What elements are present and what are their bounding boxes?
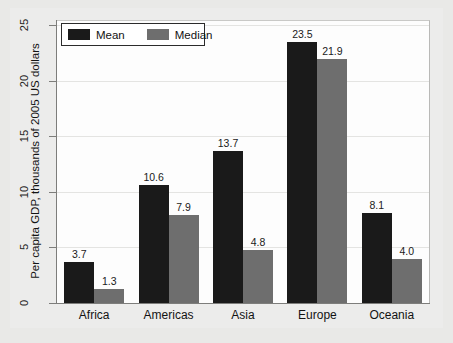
legend-label-median: Median	[175, 29, 213, 41]
x-category-label-europe: Europe	[280, 308, 354, 322]
legend-item-mean[interactable]: Mean	[68, 29, 125, 41]
value-label-oceania-median: 4.0	[383, 245, 431, 257]
legend-item-median[interactable]: Median	[147, 29, 213, 41]
x-axis-line	[56, 303, 430, 304]
bar-asia-median[interactable]	[243, 250, 273, 303]
value-label-africa-mean: 3.7	[55, 248, 103, 260]
legend-label-mean: Mean	[96, 29, 125, 41]
legend-swatch-mean	[68, 29, 90, 40]
x-category-label-africa: Africa	[57, 308, 131, 322]
value-label-americas-median: 7.9	[160, 201, 208, 213]
x-category-label-asia: Asia	[206, 308, 280, 322]
y-axis-title: Per capita GDP, thousands of 2005 US dol…	[29, 16, 41, 306]
legend-swatch-median	[147, 29, 169, 40]
x-category-label-oceania: Oceania	[355, 308, 429, 322]
y-axis-line	[56, 20, 57, 304]
value-label-europe-mean: 23.5	[278, 28, 326, 40]
chart-page: 0510152025 Per capita GDP, thousands of …	[0, 0, 453, 343]
bar-africa-median[interactable]	[94, 289, 124, 303]
bar-americas-median[interactable]	[169, 215, 199, 303]
y-tick-15	[49, 136, 56, 137]
chart-legend: MeanMedian	[61, 23, 205, 46]
y-tick-25	[49, 25, 56, 26]
value-label-americas-mean: 10.6	[130, 171, 178, 183]
bar-europe-mean[interactable]	[287, 42, 317, 303]
bar-oceania-mean[interactable]	[362, 213, 392, 303]
value-label-oceania-mean: 8.1	[353, 199, 401, 211]
bar-oceania-median[interactable]	[392, 259, 422, 303]
value-label-africa-median: 1.3	[85, 275, 133, 287]
gridline-10	[57, 192, 429, 193]
y-tick-0	[49, 303, 56, 304]
value-label-asia-mean: 13.7	[204, 137, 252, 149]
gridline-20	[57, 81, 429, 82]
x-category-label-americas: Americas	[131, 308, 205, 322]
value-label-europe-median: 21.9	[308, 45, 356, 57]
y-tick-10	[49, 192, 56, 193]
value-label-asia-median: 4.8	[234, 236, 282, 248]
y-tick-20	[49, 81, 56, 82]
bar-europe-median[interactable]	[317, 59, 347, 303]
bar-asia-mean[interactable]	[213, 151, 243, 303]
